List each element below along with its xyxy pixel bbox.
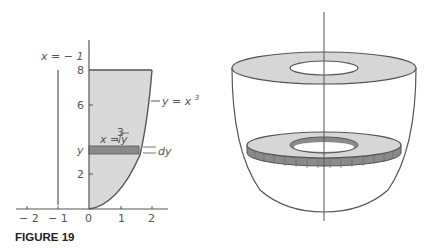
y-band-label: y [76,144,84,157]
left-plot: − 2 − 1 0 1 2 2 6 8 y x = − 1 y = x 3 x … [15,40,199,243]
y-tick-label: 2 [77,168,84,181]
figure-caption: FIGURE 19 [15,231,74,243]
y-tick-label: 8 [77,64,84,77]
x-tick-label: 2 [148,212,155,225]
vertical-line-label: x = − 1 [40,50,83,63]
solid-of-revolution [232,12,416,221]
x-tick-label: − 1 [48,212,68,225]
root-radicand: y [120,133,128,146]
horizontal-strip [89,146,139,154]
curve-label: y = x 3 [161,94,199,108]
x-tick-label: 0 [85,212,92,225]
x-tick-label: − 2 [19,212,39,225]
y-tick-label: 6 [77,99,84,112]
figure-19: − 2 − 1 0 1 2 2 6 8 y x = − 1 y = x 3 x … [0,0,427,248]
dy-label: dy [158,145,172,158]
x-tick-label: 1 [118,212,125,225]
